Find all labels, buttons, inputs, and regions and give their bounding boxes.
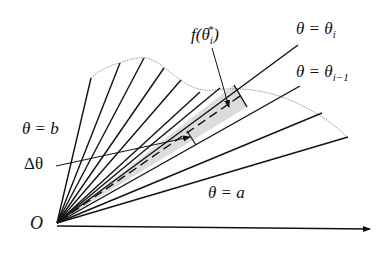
origin-label: O (30, 214, 43, 232)
theta-b-label: θ = b (22, 120, 59, 137)
f-theta-star-label: f(θi*) (191, 24, 219, 46)
f-close-paren: ) (213, 25, 219, 44)
theta-i-text: θ = θ (296, 19, 333, 38)
ray (57, 68, 164, 223)
theta-i-subscript: i (333, 28, 336, 40)
ray-theta-i (57, 45, 298, 223)
theta-im1-subscript: i−1 (333, 71, 349, 83)
polar-sectors-diagram: O θ = b Δθ θ = a θ = θi θ = θi−1 f(θi*) (0, 0, 382, 253)
theta-i-label: θ = θi (296, 20, 336, 40)
f-text: f(θ (191, 25, 210, 44)
theta-i-minus-1-label: θ = θi−1 (296, 63, 349, 83)
ray (57, 92, 200, 223)
theta-im1-text: θ = θ (296, 62, 333, 81)
delta-theta-label: Δθ (24, 155, 43, 172)
theta-a-label: θ = a (208, 184, 245, 201)
ray (57, 88, 220, 223)
polar-axis (57, 226, 370, 229)
ray-theta-a (57, 137, 348, 223)
